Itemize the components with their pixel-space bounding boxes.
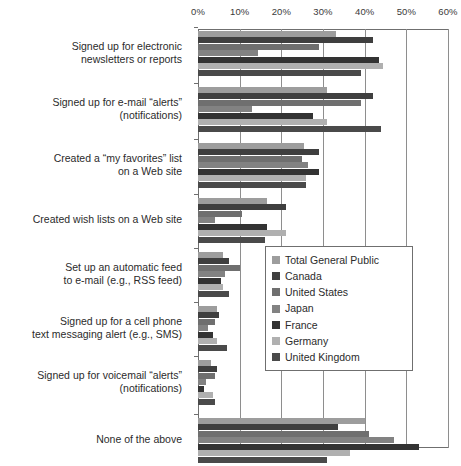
- legend-swatch-icon: [272, 337, 280, 345]
- category-label-line: text messaging alert (e.g., SMS): [0, 328, 182, 341]
- bar: [198, 252, 223, 258]
- bar: [198, 204, 286, 210]
- bar: [198, 306, 217, 312]
- bar: [198, 198, 267, 204]
- bar: [198, 217, 215, 223]
- y-axis-category-label: Signed up for a cell phonetext messaging…: [0, 315, 182, 340]
- x-axis-tick-label: 0%: [191, 6, 205, 17]
- bar: [198, 169, 319, 175]
- x-axis-tick-label: 60%: [438, 6, 457, 17]
- legend-swatch-icon: [272, 288, 280, 296]
- bar: [198, 291, 229, 297]
- legend-item[interactable]: France: [272, 317, 406, 333]
- category-label-line: (notifications): [0, 382, 182, 395]
- bar: [198, 345, 227, 351]
- bar: [198, 37, 373, 43]
- category-label-line: Signed up for a cell phone: [0, 315, 182, 328]
- bar: [198, 63, 383, 69]
- category-label-line: None of the above: [0, 433, 182, 446]
- bar: [198, 418, 365, 424]
- bar: [198, 119, 327, 125]
- bar: [198, 211, 242, 217]
- category-label-line: Signed up for e-mail “alerts”: [0, 96, 182, 109]
- category-label-line: Created a “my favorites” list: [0, 152, 182, 165]
- category-label-line: Signed up for voicemail “alerts”: [0, 369, 182, 382]
- legend-item[interactable]: Total General Public: [272, 252, 406, 268]
- bar: [198, 312, 219, 318]
- bar: [198, 182, 306, 188]
- category-label-line: (notifications): [0, 109, 182, 122]
- legend-label: Germany: [285, 336, 328, 347]
- legend-item[interactable]: Canada: [272, 268, 406, 284]
- legend-item[interactable]: United Kingdom: [272, 349, 406, 365]
- bar: [198, 278, 221, 284]
- x-axis-tick-label: 50%: [397, 6, 416, 17]
- bar: [198, 431, 369, 437]
- bar: [198, 113, 313, 119]
- bar: [198, 126, 381, 132]
- bar: [198, 70, 361, 76]
- y-axis-tickmark: [194, 83, 198, 84]
- bar: [198, 230, 286, 236]
- x-axis-tick-label: 10%: [230, 6, 249, 17]
- bar: [198, 437, 394, 443]
- y-axis-category-label: Signed up for e-mail “alerts”(notificati…: [0, 96, 182, 121]
- y-axis-category-labels: Signed up for electronicnewsletters or r…: [0, 29, 190, 448]
- bar: [198, 284, 223, 290]
- category-label-line: newsletters or reports: [0, 53, 182, 66]
- bar: [198, 237, 265, 243]
- legend-item[interactable]: Japan: [272, 301, 406, 317]
- bar: [198, 338, 217, 344]
- bar: [198, 175, 306, 181]
- y-axis-category-label: Created wish lists on a Web site: [0, 213, 182, 226]
- bar-chart: 0%10%20%30%40%50%60% Signed up for elect…: [0, 0, 461, 466]
- bar: [198, 156, 302, 162]
- legend-label: United Kingdom: [285, 352, 360, 363]
- bar: [198, 399, 215, 405]
- bar: [198, 373, 215, 379]
- bar: [198, 100, 361, 106]
- bar: [198, 271, 225, 277]
- bar-group: [198, 143, 448, 188]
- y-axis-category-label: Set up an automatic feedto e-mail (e.g.,…: [0, 261, 182, 286]
- bar: [198, 31, 336, 37]
- y-axis-category-label: Signed up for voicemail “alerts”(notific…: [0, 369, 182, 394]
- legend-item[interactable]: Germany: [272, 333, 406, 349]
- gridline: [448, 29, 449, 448]
- category-label-line: on a Web site: [0, 165, 182, 178]
- bar: [198, 319, 215, 325]
- bar: [198, 325, 208, 331]
- legend-swatch-icon: [272, 321, 280, 329]
- x-axis-tick-labels: 0%10%20%30%40%50%60%: [0, 6, 461, 22]
- bar: [198, 386, 204, 392]
- bar: [198, 87, 327, 93]
- legend-swatch-icon: [272, 305, 280, 313]
- legend-swatch-icon: [272, 256, 280, 264]
- category-label-line: to e-mail (e.g., RSS feed): [0, 274, 182, 287]
- y-axis-tickmark: [194, 356, 198, 357]
- bar: [198, 57, 379, 63]
- bar: [198, 379, 206, 385]
- category-label-line: Set up an automatic feed: [0, 261, 182, 274]
- legend-swatch-icon: [272, 353, 280, 361]
- legend-label: United States: [285, 287, 348, 298]
- category-label-line: Signed up for electronic: [0, 40, 182, 53]
- y-axis-category-label: Created a “my favorites” liston a Web si…: [0, 152, 182, 177]
- plot-area: [198, 29, 448, 448]
- chart-legend: Total General PublicCanadaUnited StatesJ…: [265, 246, 413, 371]
- bar: [198, 366, 217, 372]
- bar: [198, 360, 211, 366]
- bar-group: [198, 31, 448, 76]
- bar: [198, 50, 258, 56]
- bar: [198, 143, 304, 149]
- x-axis-tick-label: 30%: [313, 6, 332, 17]
- bar: [198, 332, 213, 338]
- bar: [198, 224, 267, 230]
- y-axis-tickmark: [194, 27, 198, 28]
- y-axis-tickmark: [194, 248, 198, 249]
- bar: [198, 392, 213, 398]
- x-axis-tick-label: 40%: [355, 6, 374, 17]
- legend-item[interactable]: United States: [272, 284, 406, 300]
- bar: [198, 265, 240, 271]
- bar: [198, 162, 308, 168]
